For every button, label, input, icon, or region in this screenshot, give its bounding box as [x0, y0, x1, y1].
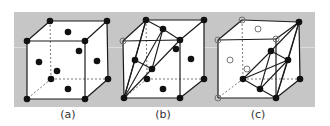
atom-filled-icon	[177, 95, 184, 102]
atom-filled-icon	[76, 48, 83, 55]
atom-filled-icon	[65, 29, 72, 36]
atom-filled-icon	[24, 96, 31, 103]
atom-filled-icon	[24, 38, 31, 45]
atom-filled-icon	[273, 95, 280, 102]
panel-label-b: (b)	[155, 108, 171, 121]
atom-filled-icon	[240, 76, 247, 83]
atom-filled-icon	[54, 68, 61, 75]
atom-filled-icon	[149, 66, 156, 73]
panel-label-c: (c)	[251, 108, 266, 121]
atom-filled-icon	[177, 37, 184, 44]
atom-filled-icon	[201, 76, 208, 83]
atom-filled-icon	[201, 17, 208, 24]
atom-filled-icon	[132, 57, 139, 64]
atom-filled-icon	[160, 86, 167, 93]
atom-filled-icon	[268, 48, 275, 55]
atom-filled-icon	[36, 59, 43, 66]
atom-filled-icon	[47, 18, 54, 25]
atom-filled-icon	[105, 76, 112, 83]
panel-label-a: (a)	[60, 108, 75, 121]
atom-filled-icon	[296, 19, 303, 26]
atom-filled-icon	[144, 76, 151, 83]
atom-filled-icon	[82, 96, 89, 103]
atom-filled-icon	[94, 58, 101, 65]
atom-filled-icon	[257, 86, 264, 93]
atom-filled-icon	[48, 76, 55, 83]
atom-filled-icon	[65, 86, 72, 93]
atom-filled-icon	[297, 76, 304, 83]
atom-filled-icon	[188, 56, 195, 63]
atom-filled-icon	[143, 17, 150, 24]
atom-filled-icon	[285, 57, 292, 64]
crystal-structure-figure: (a) (b) (c)	[0, 0, 330, 126]
atom-filled-icon	[173, 46, 180, 53]
atom-filled-icon	[104, 18, 111, 25]
atom-filled-icon	[160, 26, 167, 33]
atom-filled-icon	[82, 38, 89, 45]
atom-filled-icon	[121, 95, 128, 102]
